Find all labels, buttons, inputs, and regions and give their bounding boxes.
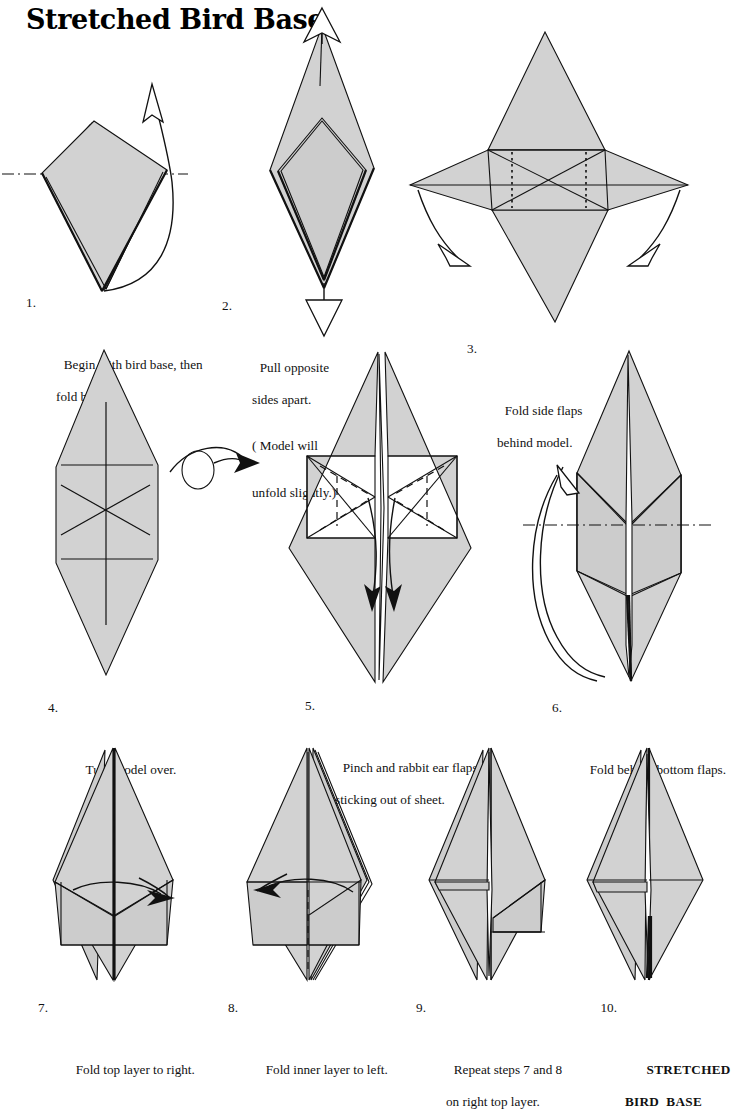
step-7-number: 7.: [26, 1000, 48, 1016]
step-7-diagram: [35, 740, 205, 985]
step-3-diagram: [400, 22, 700, 332]
step-2-number: 2.: [210, 298, 232, 314]
step-10-line1: STRETCHED: [647, 1062, 731, 1077]
step-5-number: 5.: [293, 698, 315, 714]
step-8-diagram: [225, 740, 395, 985]
step-7-line1: Fold top layer to right.: [76, 1062, 195, 1077]
step-10-caption: 10. STRETCHED BIRD BASE: [595, 1000, 731, 1113]
step-6-diagram: [505, 345, 720, 685]
step-4-number: 4.: [36, 700, 58, 716]
step-6-number: 6.: [540, 700, 562, 716]
step-5-diagram: [275, 348, 495, 688]
step-9-caption: 9. Repeat steps 7 and 8 on right top lay…: [404, 1000, 562, 1113]
step-1-number: 1.: [14, 295, 36, 311]
step-9-line1: Repeat steps 7 and 8: [454, 1062, 562, 1077]
step-9-number: 9.: [404, 1000, 426, 1016]
step-8-caption: 8. Fold inner layer to left.: [216, 1000, 388, 1113]
step-10-line2: BIRD BASE: [625, 1094, 731, 1110]
step-9-line2: on right top layer.: [446, 1094, 562, 1110]
step-10-diagram: [565, 740, 725, 985]
step-1-diagram: [0, 40, 220, 300]
step-7-caption: 7. Fold top layer to right.: [26, 1000, 195, 1113]
step-8-line1: Fold inner layer to left.: [266, 1062, 388, 1077]
step-9-diagram: [405, 740, 565, 985]
step-8-number: 8.: [216, 1000, 238, 1016]
step-4-diagram: [20, 345, 270, 680]
step-10-number: 10.: [595, 1000, 617, 1016]
